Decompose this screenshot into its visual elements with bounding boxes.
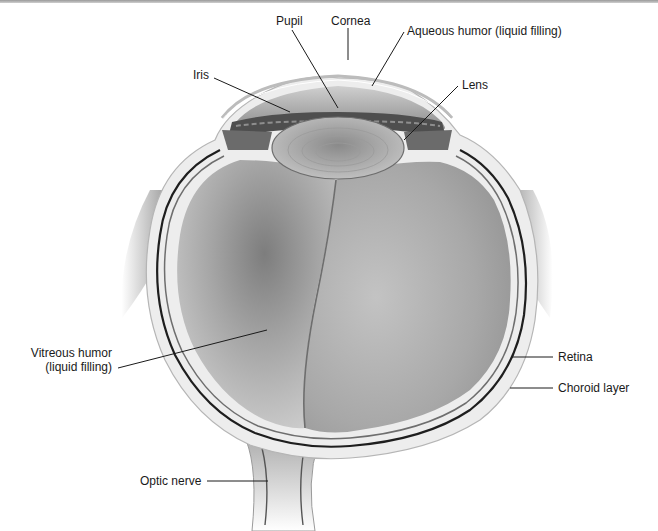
label-vitreous-humor-line1: Vitreous humor bbox=[26, 346, 112, 360]
label-choroid-layer: Choroid layer bbox=[558, 381, 629, 395]
label-pupil: Pupil bbox=[276, 14, 303, 28]
label-cornea: Cornea bbox=[331, 14, 370, 28]
label-aqueous-humor: Aqueous humor (liquid filling) bbox=[407, 24, 562, 38]
label-retina: Retina bbox=[558, 350, 593, 364]
lens bbox=[272, 117, 404, 179]
label-optic-nerve: Optic nerve bbox=[140, 474, 201, 488]
label-lens: Lens bbox=[462, 78, 488, 92]
ciliary-body-left bbox=[222, 130, 272, 150]
label-vitreous-humor-line2: (liquid filling) bbox=[26, 360, 112, 374]
eye-cross-section-illustration bbox=[0, 0, 658, 531]
aqueous-leader bbox=[372, 32, 404, 86]
label-iris: Iris bbox=[193, 68, 209, 82]
label-vitreous-humor: Vitreous humor (liquid filling) bbox=[26, 346, 112, 374]
